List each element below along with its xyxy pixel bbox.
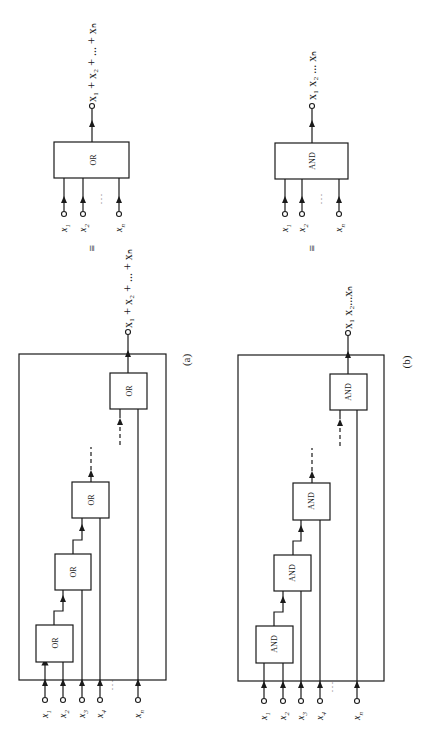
svg-text:. . .: . . . [326,682,335,692]
input-terminal-x3 [80,698,85,703]
svg-text:AND: AND [308,152,317,170]
panel-a-or-cascade: . . . x1 x2 x3 x4 xn OR OR OR OR [19,249,193,719]
svg-text:OR: OR [51,637,60,649]
label-xn: xn [132,710,146,719]
input-terminal-x2 [61,698,66,703]
output-terminal-a [126,330,131,335]
svg-text:AND: AND [288,564,297,582]
input-terminal-x4-b [318,699,323,704]
equiv-symbol-b: ≡ [305,244,319,251]
svg-text:. . .: . . . [95,194,104,204]
label-x4: x4 [94,710,108,719]
svg-text:OR: OR [69,566,78,578]
caption-b: (b) [400,355,413,368]
input-terminal-x3-b [299,699,304,704]
svg-text:. . .: . . . [315,194,324,204]
svg-text:x2: x2 [277,712,291,721]
label-x2: x2 [57,710,71,719]
input-terminal-xn-b [355,699,360,704]
input-ellipsis: . . . [106,680,115,690]
or-output-label: x₁ + x₂ + ... + xₙ [85,23,99,102]
output-label-a: x₁ + x₂ + ... + xₙ [121,249,135,328]
svg-text:x3: x3 [295,712,309,721]
svg-text:x1: x1 [258,712,272,721]
svg-text:AND: AND [344,383,353,401]
input-terminal-x4 [98,698,103,703]
input-terminal-x2-b [281,699,286,704]
and-output-label: x₁ x₂ ... xₙ [305,51,319,100]
output-label-b: x₁ x₂...xₙ [341,286,355,329]
input-terminal-x1-b [262,699,267,704]
label-x1: x1 [39,710,53,719]
svg-text:x1: x1 [58,224,72,233]
svg-text:xn: xn [333,224,347,233]
svg-text:x4: x4 [314,712,328,721]
input-terminal-x1 [43,698,48,703]
equivalent-and-gate: AND . . . x1 x2 xn x₁ x₂ ... xₙ ≡ [275,51,348,252]
caption-a: (a) [180,354,193,367]
svg-text:AND: AND [270,635,279,653]
panel-b-and-cascade: . . . x1 x2 x3 x4 xn AND AND AND AND x₁ … [238,286,413,721]
svg-text:x1: x1 [279,224,293,233]
label-x3: x3 [76,710,90,719]
equiv-symbol-a: ≡ [85,244,99,251]
svg-text:AND: AND [307,492,316,510]
output-terminal-b [346,331,351,336]
svg-text:xn: xn [351,712,365,721]
input-terminal-xn [136,698,141,703]
gate-cascade-diagram: . . . x1 x2 x3 x4 xn OR OR OR OR [0,0,421,730]
equivalent-or-gate: OR . . . x1 x2 xn x₁ + x₂ + ... + xₙ ≡ [54,23,129,251]
svg-text:OR: OR [89,154,98,166]
svg-text:x2: x2 [77,224,91,233]
svg-text:xn: xn [113,224,127,233]
svg-text:x2: x2 [296,224,310,233]
svg-text:OR: OR [87,494,96,506]
svg-text:OR: OR [125,385,134,397]
